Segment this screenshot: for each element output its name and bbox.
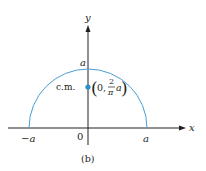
y-tick-a: a bbox=[80, 57, 86, 68]
x-tick-a: a bbox=[143, 133, 149, 144]
x-axis-label: x bbox=[189, 122, 195, 133]
x-axis bbox=[8, 126, 186, 131]
y-axis-label: y bbox=[84, 12, 91, 23]
center-of-mass-coordinate: ( 0, 2 π a ) bbox=[91, 77, 128, 98]
x-tick-neg-a: −a bbox=[21, 133, 35, 144]
center-of-mass-label: c.m. bbox=[56, 82, 75, 92]
x-axis-arrow-icon bbox=[179, 126, 186, 131]
figure-caption: (b) bbox=[81, 153, 95, 164]
y-axis-arrow-icon bbox=[86, 25, 91, 32]
semicircle-com-diagram: y x a −a a 0 c.m. ( 0, 2 π a ) (b) bbox=[0, 0, 206, 171]
fraction-denominator: π bbox=[107, 88, 114, 97]
close-paren: ) bbox=[121, 78, 128, 98]
center-of-mass-point bbox=[85, 84, 90, 89]
fraction-numerator: 2 bbox=[109, 77, 114, 86]
origin-label: 0 bbox=[77, 131, 83, 142]
coord-x: 0, bbox=[97, 82, 106, 93]
